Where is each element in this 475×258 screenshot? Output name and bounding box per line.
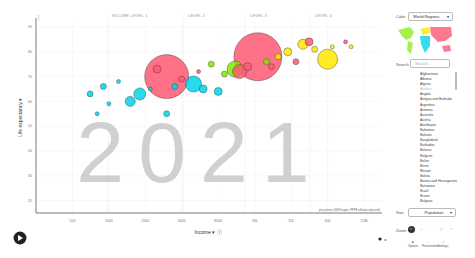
chevron-down-icon: ▾ <box>447 13 449 20</box>
country-bubble[interactable] <box>125 96 135 106</box>
country-bubble[interactable] <box>221 71 227 77</box>
y-tick-label: 40 <box>28 149 32 153</box>
x-tick-label: 1000 <box>105 219 113 223</box>
zoom-arrow-button[interactable]: ↖ <box>408 226 415 233</box>
zoom-label: Zoom <box>396 228 406 233</box>
y-tick-label: 70 <box>28 75 32 79</box>
x-tick-label: 4000 <box>178 219 186 223</box>
speed-icon[interactable]: ◂ <box>384 237 386 242</box>
size-select[interactable]: Population ▾ <box>408 208 456 217</box>
country-bubble[interactable] <box>305 38 313 46</box>
options-button[interactable]: ■Options <box>408 240 418 248</box>
y-tick-label: 30 <box>28 174 32 178</box>
x-tick-label: 64k <box>325 219 331 223</box>
country-bubble[interactable] <box>284 48 292 56</box>
country-bubble[interactable] <box>208 61 214 67</box>
country-bubble[interactable] <box>107 102 111 106</box>
country-bubble[interactable] <box>100 83 106 89</box>
country-bubble[interactable] <box>153 65 161 73</box>
color-label: Color <box>396 14 406 19</box>
country-bubble[interactable] <box>344 40 348 44</box>
country-bubble[interactable] <box>275 54 281 60</box>
country-list-item[interactable]: Bulgaria <box>420 199 460 204</box>
country-bubble[interactable] <box>95 112 99 116</box>
country-bubble[interactable] <box>263 59 269 65</box>
settings-button[interactable]: ⤢Settings <box>437 240 449 248</box>
country-bubble[interactable] <box>148 87 152 91</box>
income-level-3-label: LEVEL 3 <box>250 13 267 23</box>
search-input[interactable]: Search... <box>410 59 450 68</box>
country-bubble[interactable] <box>172 83 178 89</box>
color-select-value: World Regions <box>413 14 439 19</box>
country-bubble[interactable] <box>179 76 185 82</box>
country-bubble[interactable] <box>312 46 318 52</box>
country-bubble[interactable] <box>199 85 207 93</box>
country-bubble[interactable] <box>349 45 353 49</box>
country-bubble[interactable] <box>214 87 222 95</box>
y-axis-title[interactable]: Life expectancy ▾ <box>17 98 23 137</box>
country-bubble[interactable] <box>268 64 274 70</box>
color-select[interactable]: World Regions ▾ <box>408 12 453 21</box>
y-tick-label: 20 <box>28 199 32 203</box>
x-tick-label: 2000 <box>141 219 149 223</box>
x-tick-label: 128k <box>360 219 368 223</box>
country-bubble[interactable] <box>244 63 252 71</box>
country-bubble[interactable] <box>197 70 201 74</box>
speed-dot[interactable] <box>378 237 381 240</box>
x-tick-label: 8000 <box>214 219 222 223</box>
zoom-undo-button[interactable]: ↶ <box>448 226 455 233</box>
world-map-icon[interactable] <box>396 24 456 56</box>
country-list[interactable]: AfghanistanAlbaniaAlgeriaAndorraAngolaAn… <box>420 72 460 204</box>
year-watermark: 2021 <box>76 104 323 200</box>
chart-svg: 2030405060708090500100020004000800016k32… <box>0 0 390 258</box>
zoom-in-button[interactable]: + <box>418 226 425 233</box>
x-axis-title[interactable]: Income ▾ ⓘ <box>194 229 221 236</box>
y-tick-label: 80 <box>28 50 32 54</box>
y-tick-label: 90 <box>28 25 32 29</box>
country-list-scrollbar[interactable] <box>455 72 457 90</box>
income-level-2-label: LEVEL 2 <box>188 13 205 23</box>
zoom-out-button[interactable]: − <box>428 226 435 233</box>
x-tick-label: 16k <box>252 219 258 223</box>
country-bubble[interactable] <box>116 80 120 84</box>
income-level-1-label: INCOME LEVEL 1 <box>112 13 148 23</box>
y-tick-label: 60 <box>28 100 32 104</box>
zoom-fit-button[interactable]: ▢ <box>438 226 445 233</box>
bubble-chart[interactable]: 2030405060708090500100020004000800016k32… <box>0 0 390 258</box>
y-tick-label: 50 <box>28 124 32 128</box>
size-select-value: Population <box>425 210 444 215</box>
x-tick-label: 500 <box>70 219 76 223</box>
size-label: Size <box>396 210 404 215</box>
chevron-down-icon: ▾ <box>450 209 452 216</box>
country-bubble[interactable] <box>293 59 299 65</box>
search-label: Search <box>396 62 409 67</box>
country-bubble[interactable] <box>330 45 334 49</box>
country-bubble[interactable] <box>318 49 338 69</box>
country-bubble[interactable] <box>164 111 170 117</box>
income-level-4-label: LEVEL 4 <box>315 13 332 23</box>
presentation-button[interactable]: □Presentation <box>422 240 434 248</box>
x-tick-label: 32k <box>288 219 294 223</box>
country-bubble[interactable] <box>134 88 146 100</box>
x-unit-note: per person (GDP/capita, PPP$ inflation-a… <box>319 208 380 212</box>
y-unit-label: years <box>37 14 40 21</box>
country-bubble[interactable] <box>87 91 93 97</box>
